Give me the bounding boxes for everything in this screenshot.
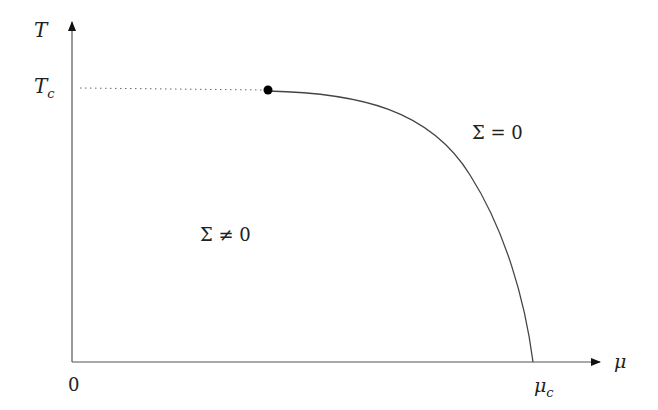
y-axis-label: T (34, 18, 47, 42)
y-tick-main: T (34, 74, 47, 98)
x-axis-label: μ (614, 350, 626, 372)
region-label-broken: Σ ≠ 0 (200, 224, 251, 245)
y-tick-tc: Tc (34, 74, 55, 98)
x-tick-muc: μc (534, 374, 554, 396)
phase-diagram (0, 0, 658, 410)
y-tick-sub: c (47, 86, 54, 101)
crossover-dotted-line (80, 88, 264, 90)
x-origin-label: 0 (68, 374, 79, 395)
x-tick-sub: c (546, 385, 553, 400)
x-tick-main: μ (534, 374, 546, 396)
critical-point (264, 86, 273, 95)
region-label-symmetric: Σ = 0 (472, 122, 523, 143)
